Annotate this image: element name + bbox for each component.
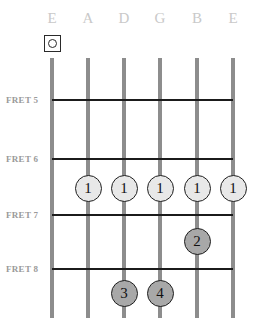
string-label-a: A (73, 10, 103, 26)
finger-dot-1-0: 1 (75, 175, 102, 202)
fret-label-3: FRET 7 (6, 210, 52, 220)
chord-diagram: EADGBE FRET 5FRET 6FRET 7FRET 8 11111234 (0, 0, 253, 318)
finger-dot-3-6: 3 (111, 280, 138, 307)
string-label-high-e: E (218, 10, 248, 26)
finger-dot-1-1: 1 (111, 175, 138, 202)
open-string-icon (44, 35, 61, 52)
string-label-d: D (109, 10, 139, 26)
finger-dot-4-7: 4 (147, 280, 174, 307)
fret-label-1: FRET 5 (6, 95, 52, 105)
fret-line-4 (52, 268, 233, 270)
fret-label-4: FRET 8 (6, 264, 52, 274)
finger-dot-1-3: 1 (184, 175, 211, 202)
finger-dot-1-4: 1 (220, 175, 247, 202)
fret-line-2 (52, 158, 233, 160)
fret-line-1 (52, 99, 233, 101)
finger-dot-1-2: 1 (147, 175, 174, 202)
open-string-ring-icon (48, 39, 57, 48)
string-label-b: B (182, 10, 212, 26)
fret-label-2: FRET 6 (6, 154, 52, 164)
finger-dot-2-5: 2 (184, 228, 211, 255)
string-label-low-e: E (37, 10, 67, 26)
string-label-g: G (145, 10, 175, 26)
fret-line-3 (52, 214, 233, 216)
